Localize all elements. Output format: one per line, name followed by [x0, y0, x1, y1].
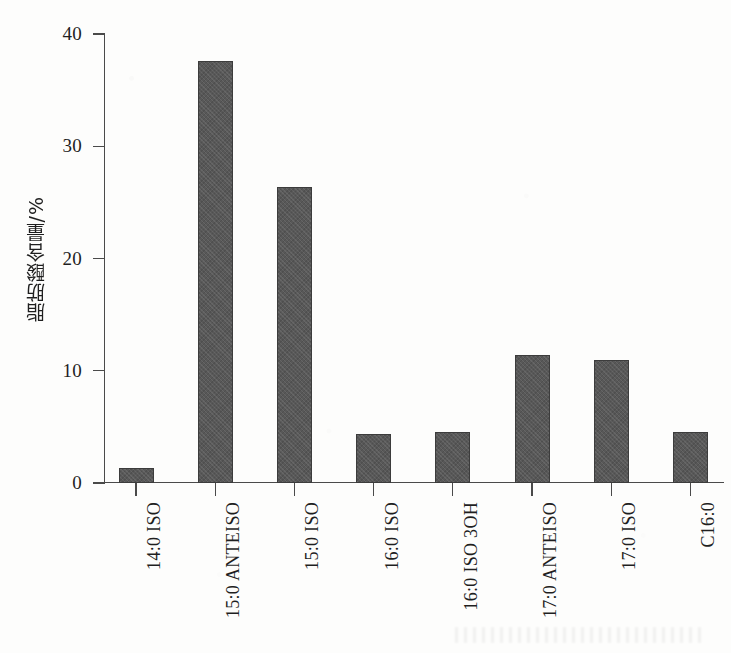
y-tick-label: 30: [36, 136, 82, 155]
bar: [673, 432, 708, 483]
x-tick-label: 16:0 ISO 3OH: [462, 502, 480, 611]
bar: [356, 434, 391, 483]
x-axis-category-label: 16:0 ISO 3OH: [462, 502, 480, 611]
x-tick-mark: [215, 483, 216, 496]
x-tick-mark: [373, 483, 374, 496]
x-tick-label: 15:0 ISO: [303, 502, 321, 570]
y-tick-mark: [93, 146, 104, 147]
x-axis-category-label: 17:0 ANTEISO: [541, 502, 559, 618]
y-tick-mark: [93, 258, 104, 259]
y-tick-mark: [93, 33, 104, 34]
x-tick-label: 15:0 ANTEISO: [224, 502, 242, 618]
y-tick-label: 20: [36, 249, 82, 268]
x-tick-label: 17:0 ANTEISO: [541, 502, 559, 618]
bar: [119, 468, 154, 483]
x-tick-label: 16:0 ISO: [383, 502, 401, 570]
y-tick-mark: [93, 482, 104, 483]
x-axis-category-label: 16:0 ISO: [383, 502, 401, 570]
bar-chart: 脂肪酸含量/% 010203040 14:0 ISO15:0 ANTEISO15…: [0, 0, 731, 653]
bar: [277, 187, 312, 483]
bar: [594, 360, 629, 483]
x-tick-mark: [452, 483, 453, 496]
y-tick-label: 40: [36, 24, 82, 43]
x-tick-label: 17:0 ISO: [620, 502, 638, 570]
x-axis-category-label: C16:0: [699, 502, 717, 548]
x-tick-mark: [135, 483, 136, 496]
x-axis-category-label: 14:0 ISO: [145, 502, 163, 570]
x-tick-mark: [531, 483, 532, 496]
bar: [515, 355, 550, 483]
scan-artifact: [455, 627, 705, 643]
x-tick-mark: [611, 483, 612, 496]
y-axis-line: [104, 33, 105, 484]
y-tick-label: 10: [36, 361, 82, 380]
x-axis-category-label: 15:0 ISO: [303, 502, 321, 570]
bar: [198, 61, 233, 483]
x-tick-mark: [294, 483, 295, 496]
x-tick-label: 14:0 ISO: [145, 502, 163, 570]
y-tick-label: 0: [36, 473, 82, 492]
bar: [435, 432, 470, 483]
y-tick-mark: [93, 370, 104, 371]
x-tick-label: C16:0: [699, 502, 717, 548]
x-axis-category-label: 17:0 ISO: [620, 502, 638, 570]
x-axis-category-label: 15:0 ANTEISO: [224, 502, 242, 618]
x-tick-mark: [690, 483, 691, 496]
